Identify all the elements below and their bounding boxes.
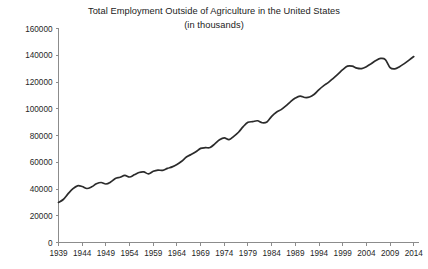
x-tick-label: 1939 <box>49 249 68 258</box>
x-tick-label: 1979 <box>239 249 258 258</box>
x-tick-label: 1969 <box>191 249 210 258</box>
y-tick-label: 100000 <box>25 105 53 114</box>
x-tick-label: 2014 <box>405 249 424 258</box>
employment-series-line <box>59 57 414 203</box>
y-axis-group: 0200004000060000800001000001200001400001… <box>25 25 58 248</box>
x-tick-label: 1944 <box>73 249 92 258</box>
x-tick-label: 1994 <box>310 249 329 258</box>
x-tick-label: 1959 <box>144 249 163 258</box>
x-tick-labels: 1939194419491954195919641969197419791984… <box>49 249 423 258</box>
y-tick-label: 40000 <box>30 185 53 194</box>
x-tick-label: 1954 <box>120 249 139 258</box>
y-tick-labels: 0200004000060000800001000001200001400001… <box>25 25 53 248</box>
x-tick-label: 1949 <box>97 249 116 258</box>
x-tick-label: 1974 <box>215 249 234 258</box>
line-chart-plot: 0200004000060000800001000001200001400001… <box>0 0 428 269</box>
y-tick-label: 80000 <box>30 132 53 141</box>
x-tick-label: 2004 <box>357 249 376 258</box>
x-axis-group: 1939194419491954195919641969197419791984… <box>49 243 423 258</box>
x-tick-label: 2009 <box>381 249 400 258</box>
y-tick-label: 160000 <box>25 25 53 34</box>
y-tick-label: 120000 <box>25 78 53 87</box>
x-tick-label: 1999 <box>334 249 353 258</box>
chart-container: Total Employment Outside of Agriculture … <box>0 0 428 269</box>
y-tick-label: 0 <box>48 239 53 248</box>
y-tick-label: 20000 <box>30 212 53 221</box>
y-tick-label: 60000 <box>30 158 53 167</box>
y-tick-label: 140000 <box>25 51 53 60</box>
x-tick-label: 1984 <box>263 249 282 258</box>
x-tick-label: 1989 <box>286 249 305 258</box>
x-tick-label: 1964 <box>168 249 187 258</box>
